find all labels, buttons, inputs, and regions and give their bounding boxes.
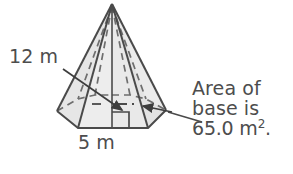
base-area-period: . [265, 117, 271, 139]
base-area-callout-line-3: 65.0 m2. [192, 119, 271, 139]
base-area-callout-line-1: Area of [192, 79, 271, 99]
base-area-callout: Area of base is 65.0 m2. [192, 79, 271, 139]
base-area-exponent: 2 [258, 117, 265, 131]
base-edge-label: 5 m [78, 133, 115, 153]
slant-height-label: 12 m [9, 47, 58, 67]
base-area-value: 65.0 m [192, 117, 258, 139]
geometry-figure-canvas: 12 m 5 m Area of base is 65.0 m2. [0, 0, 293, 174]
